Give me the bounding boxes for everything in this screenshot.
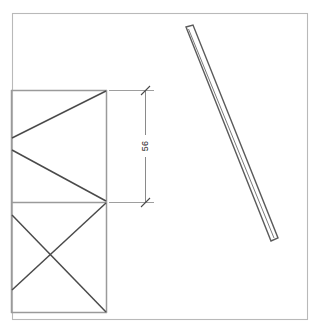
upper-panel (11, 90, 107, 202)
tilted-bar-member (186, 25, 278, 241)
vertical-dimension-56: 56 (109, 86, 154, 207)
technical-drawing-page: 56 CAD technical drawing view (0, 0, 317, 331)
lower-panel-brace-down (12, 215, 106, 312)
upper-panel-brace-upper (12, 91, 106, 138)
frame-assembly (11, 90, 107, 313)
lower-panel-brace-up (12, 203, 106, 290)
upper-panel-brace-lower (12, 150, 106, 201)
drawing-canvas: 56 (0, 0, 317, 331)
sheet-border (13, 14, 308, 320)
lower-panel (11, 202, 107, 313)
dimension-value-label: 56 (140, 141, 150, 151)
tilted-bar-inner-seam (189, 29, 275, 238)
